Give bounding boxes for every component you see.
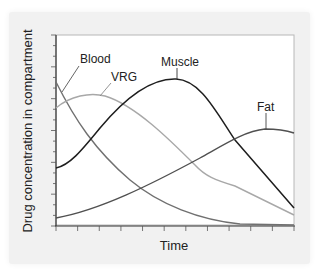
- x-axis-title: Time: [160, 238, 188, 253]
- label-vrg: VRG: [111, 70, 137, 84]
- label-muscle: Muscle: [161, 55, 199, 69]
- label-blood: Blood: [80, 52, 111, 66]
- y-axis-title: Drug concentration in compartment: [20, 29, 35, 232]
- label-fat: Fat: [257, 100, 275, 114]
- pharmacokinetics-chart: Blood VRG Muscle Fat Time Drug concentra…: [0, 0, 321, 273]
- y-axis: [51, 35, 56, 226]
- x-axis: [55, 226, 295, 231]
